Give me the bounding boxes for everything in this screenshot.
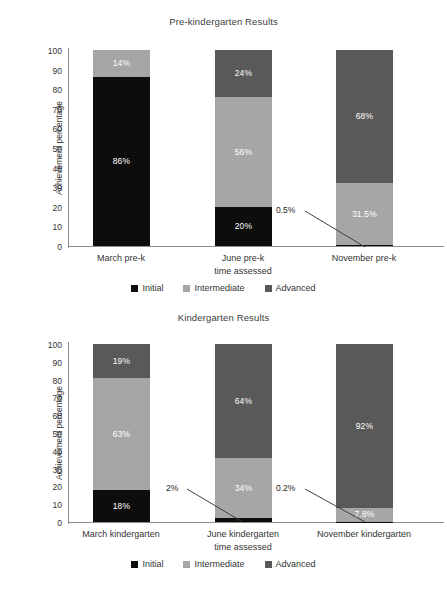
y-axis-line xyxy=(68,342,69,524)
y-tick-label: 20 xyxy=(53,483,62,492)
callout-label-initial: 0.5% xyxy=(276,206,295,215)
chart-page: { "colors": { "initial": "#0d0d0d", "int… xyxy=(0,0,447,590)
y-tick-label: 0 xyxy=(57,243,62,252)
bar-segment-advanced[interactable]: 64% xyxy=(215,344,272,458)
x-tick-label-june-kindergarten: June kindergarten xyxy=(207,528,279,541)
y-tick-label: 40 xyxy=(53,448,62,457)
y-tick-label: 10 xyxy=(53,501,62,510)
legend-item-initial[interactable]: Initial xyxy=(131,283,163,293)
callout-label-initial-june: 2% xyxy=(166,484,178,493)
y-tick-label: 50 xyxy=(53,145,62,154)
legend-swatch-intermediate-icon xyxy=(183,561,190,568)
bar-segment-initial[interactable]: 2% xyxy=(215,518,272,522)
stacked-bar-march-prek[interactable]: 14% 86% xyxy=(93,50,150,246)
y-axis-tick-labels: 100 90 80 70 60 50 40 30 20 10 0 xyxy=(30,51,62,247)
legend: Initial Intermediate Advanced xyxy=(0,559,447,569)
y-tick-label: 70 xyxy=(53,394,62,403)
bar-segment-intermediate[interactable]: 7.8% xyxy=(336,508,393,522)
legend-item-initial[interactable]: Initial xyxy=(131,559,163,569)
chart-title: Pre-kindergarten Results xyxy=(0,16,447,27)
bar-segment-advanced[interactable]: 24% xyxy=(215,50,272,97)
y-tick-label: 60 xyxy=(53,125,62,134)
legend-swatch-initial-icon xyxy=(131,561,138,568)
legend: Initial Intermediate Advanced xyxy=(0,283,447,293)
legend-swatch-initial-icon xyxy=(131,285,138,292)
y-tick-label: 50 xyxy=(53,430,62,439)
legend-item-intermediate[interactable]: Intermediate xyxy=(183,283,244,293)
stacked-bar-june-prek[interactable]: 24% 56% 20% xyxy=(215,50,272,246)
y-tick-label: 90 xyxy=(53,359,62,368)
x-tick-label-march-kindergarten: March kindergarten xyxy=(82,528,160,541)
legend-item-intermediate[interactable]: Intermediate xyxy=(183,559,244,569)
x-tick-label-november-prek: November pre-k xyxy=(332,252,397,265)
y-tick-label: 100 xyxy=(48,47,62,56)
plot-area: Achievement percentage 100 90 80 70 60 5… xyxy=(68,51,436,247)
bar-segment-initial[interactable]: 18% xyxy=(93,490,150,522)
y-tick-label: 10 xyxy=(53,223,62,232)
chart-title: Kindergarten Results xyxy=(0,312,447,323)
legend-item-advanced[interactable]: Advanced xyxy=(265,283,316,293)
bar-segment-initial[interactable]: 86% xyxy=(93,77,150,246)
y-tick-label: 0 xyxy=(57,519,62,528)
y-tick-label: 40 xyxy=(53,164,62,173)
y-axis-line xyxy=(68,48,69,248)
bar-segment-intermediate[interactable]: 14% xyxy=(93,50,150,77)
bar-segment-intermediate[interactable]: 56% xyxy=(215,97,272,207)
legend-label: Intermediate xyxy=(194,559,244,569)
x-tick-label-june-prek: June pre-k xyxy=(222,252,265,265)
y-tick-label: 80 xyxy=(53,376,62,385)
y-tick-label: 60 xyxy=(53,412,62,421)
bar-segment-initial[interactable]: 20% xyxy=(215,207,272,246)
legend-swatch-intermediate-icon xyxy=(183,285,190,292)
y-tick-label: 100 xyxy=(48,341,62,350)
legend-item-advanced[interactable]: Advanced xyxy=(265,559,316,569)
legend-swatch-advanced-icon xyxy=(265,561,272,568)
y-tick-label: 30 xyxy=(53,465,62,474)
legend-label: Initial xyxy=(142,283,163,293)
x-tick-label-march-prek: March pre-k xyxy=(97,252,145,265)
legend-label: Advanced xyxy=(276,559,316,569)
y-tick-label: 20 xyxy=(53,204,62,213)
stacked-bar-november-kindergarten[interactable]: 92% 7.8% 0.2% xyxy=(336,344,393,522)
x-axis-title: time assessed xyxy=(214,542,272,552)
y-axis-tick-labels: 100 90 80 70 60 50 40 30 20 10 0 xyxy=(30,345,62,523)
legend-label: Advanced xyxy=(276,283,316,293)
y-tick-label: 30 xyxy=(53,184,62,193)
legend-label: Intermediate xyxy=(194,283,244,293)
chart-kindergarten: Kindergarten Results Achievement percent… xyxy=(0,296,447,590)
bar-segment-initial[interactable]: 0.5% xyxy=(336,245,393,246)
bar-segment-intermediate[interactable]: 31.5% xyxy=(336,183,393,245)
bar-segment-advanced[interactable]: 19% xyxy=(93,344,150,378)
plot-area: Achievement percentage 100 90 80 70 60 5… xyxy=(68,345,436,523)
legend-label: Initial xyxy=(142,559,163,569)
y-tick-label: 80 xyxy=(53,86,62,95)
x-axis-line xyxy=(68,522,444,523)
stacked-bar-june-kindergarten[interactable]: 64% 34% 2% xyxy=(215,344,272,522)
bar-segment-advanced[interactable]: 92% xyxy=(336,344,393,508)
bar-segment-intermediate[interactable]: 34% xyxy=(215,458,272,519)
stacked-bar-march-kindergarten[interactable]: 19% 63% 18% xyxy=(93,344,150,522)
y-tick-label: 90 xyxy=(53,66,62,75)
bar-segment-intermediate[interactable]: 63% xyxy=(93,378,150,490)
bar-segment-advanced[interactable]: 68% xyxy=(336,50,393,183)
y-tick-label: 70 xyxy=(53,106,62,115)
chart-pre-kindergarten: Pre-kindergarten Results Achievement per… xyxy=(0,0,447,300)
legend-swatch-advanced-icon xyxy=(265,285,272,292)
x-axis-title: time assessed xyxy=(214,266,272,276)
x-axis-line xyxy=(68,246,444,247)
stacked-bar-november-prek[interactable]: 68% 31.5% 0.5% xyxy=(336,50,393,246)
callout-label-initial-november: 0.2% xyxy=(276,484,295,493)
x-tick-label-november-kindergarten: November kindergarten xyxy=(317,528,411,541)
